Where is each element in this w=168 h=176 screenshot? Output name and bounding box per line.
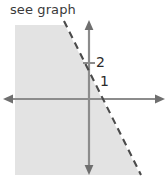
graph-figure: see graph 2 1 [0,0,168,176]
coordinate-plane-svg [0,0,168,176]
x-intercept-tick-label: 1 [100,73,109,89]
x-axis-right-arrowhead [155,95,165,104]
x-axis-left-arrowhead [3,95,13,104]
y-intercept-tick-label: 2 [96,54,105,70]
y-axis-top-arrowhead [85,20,94,30]
